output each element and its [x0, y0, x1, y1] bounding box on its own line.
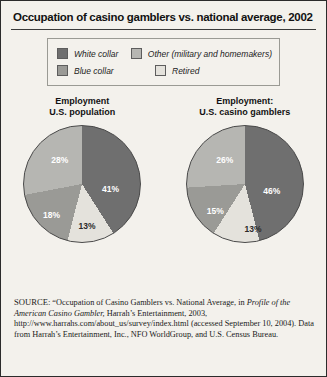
- pie-label-blue-collar: 18%: [43, 210, 60, 220]
- legend-item-white-collar: White collar: [57, 48, 131, 59]
- legend: White collar Other (military and homemak…: [47, 38, 280, 86]
- legend-swatch-icon: [57, 48, 68, 59]
- legend-item-label: Retired: [172, 66, 199, 76]
- pie-label-other: 28%: [51, 155, 68, 165]
- chart-casino-gamblers: Employment: U.S. casino gamblers 46% 13%…: [164, 96, 327, 243]
- source-citation: SOURCE: “Occupation of Casino Gamblers v…: [14, 297, 314, 340]
- pie-label-retired: 13%: [78, 221, 95, 231]
- legend-row: Blue collar Retired: [57, 62, 272, 79]
- chart-heading-line2: U.S. casino gamblers: [199, 107, 290, 118]
- chart-heading: Employment: U.S. casino gamblers: [199, 96, 290, 118]
- pie-label-blue-collar: 15%: [207, 206, 224, 216]
- pie-label-white-collar: 41%: [102, 184, 119, 194]
- chart-heading-line1: Employment: [49, 96, 115, 107]
- pie-chart: 41% 13% 18% 28%: [23, 125, 141, 243]
- legend-item-other: Other (military and homemakers): [131, 48, 272, 59]
- legend-swatch-icon: [131, 48, 142, 59]
- legend-swatch-icon: [155, 65, 166, 76]
- pie-label-retired: 13%: [244, 224, 261, 234]
- chart-us-population: Employment U.S. population 41% 13% 18% 2…: [1, 96, 164, 243]
- title-divider: [11, 29, 316, 30]
- legend-item-label: White collar: [74, 49, 118, 59]
- title-container: Occupation of casino gamblers vs. nation…: [1, 1, 326, 24]
- legend-row: White collar Other (military and homemak…: [57, 45, 272, 62]
- pie-chart: 46% 13% 15% 26%: [186, 125, 304, 243]
- chart-heading-line1: Employment:: [199, 96, 290, 107]
- legend-swatch-icon: [57, 65, 68, 76]
- pie-label-other: 26%: [216, 155, 233, 165]
- legend-item-label: Blue collar: [74, 66, 114, 76]
- chart-heading: Employment U.S. population: [49, 96, 115, 118]
- source-kicker: SOURCE:: [14, 297, 50, 307]
- figure-panel: Occupation of casino gamblers vs. nation…: [0, 0, 327, 377]
- page-title: Occupation of casino gamblers vs. nation…: [13, 11, 314, 24]
- source-text-part1: “Occupation of Casino Gamblers vs. Natio…: [50, 298, 246, 307]
- legend-item-blue-collar: Blue collar: [57, 65, 155, 76]
- chart-heading-line2: U.S. population: [49, 107, 115, 118]
- pie-label-white-collar: 46%: [263, 186, 280, 196]
- legend-item-retired: Retired: [155, 65, 199, 76]
- charts-container: Employment U.S. population 41% 13% 18% 2…: [1, 96, 326, 243]
- legend-item-label: Other (military and homemakers): [148, 49, 272, 59]
